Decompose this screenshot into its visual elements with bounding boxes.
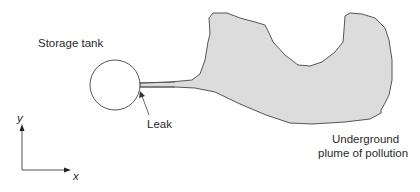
diagram-canvas	[0, 0, 420, 192]
x-axis-arrowhead-icon	[64, 168, 71, 173]
storage-tank-circle	[90, 60, 140, 110]
plume-label-line1: Underground	[332, 132, 399, 146]
plume-label-line2: plume of pollution	[318, 146, 408, 160]
storage-tank-label: Storage tank	[38, 36, 103, 50]
y-axis-arrowhead-icon	[20, 124, 25, 131]
leak-arrowhead-icon	[139, 91, 145, 98]
x-axis-label: x	[73, 169, 79, 183]
leak-arrow-line	[142, 96, 149, 115]
y-axis-label: y	[17, 111, 23, 125]
leak-label: Leak	[147, 117, 172, 131]
pollution-plume	[140, 13, 392, 124]
